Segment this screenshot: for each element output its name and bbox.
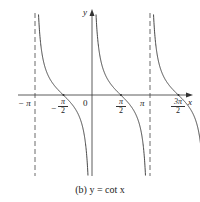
tick-three-half-pi-den: 2 — [171, 107, 185, 115]
origin-label: 0 — [83, 99, 88, 108]
tick-neg-half-pi-sign: − — [51, 104, 56, 113]
zero-point-three-half-pi — [178, 94, 180, 96]
tick-pi: π — [140, 99, 145, 108]
y-axis-label: y — [83, 8, 87, 17]
y-axis-arrow-icon — [90, 9, 95, 16]
tick-half-pi-den: 2 — [116, 107, 126, 115]
tick-neg-half-pi-den: 2 — [58, 107, 68, 115]
zero-point-half-pi — [120, 94, 122, 96]
tick-neg-half-pi: π 2 — [58, 98, 68, 115]
x-axis-label: x — [188, 98, 192, 107]
tick-half-pi: π 2 — [116, 98, 126, 115]
tick-three-half-pi: 3π 2 — [171, 98, 185, 115]
chart-caption: (b) y = cot x — [0, 184, 200, 195]
zero-point-neg-half-pi — [63, 94, 65, 96]
tick-neg-pi: − π — [18, 99, 31, 108]
